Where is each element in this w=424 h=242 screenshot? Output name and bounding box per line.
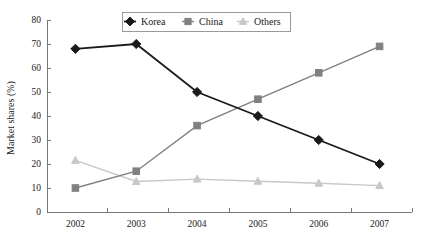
y-tick-label: 60 xyxy=(32,63,42,73)
series-korea xyxy=(71,39,384,168)
y-tick-label: 40 xyxy=(32,111,42,121)
y-tick-label: 10 xyxy=(32,183,42,193)
x-tick-label: 2006 xyxy=(309,219,328,229)
series-others xyxy=(72,156,384,188)
data-point-marker xyxy=(72,185,79,192)
legend-label-others: Others xyxy=(254,16,281,27)
data-point-marker xyxy=(255,96,262,103)
x-tick-label: 2007 xyxy=(370,219,389,229)
x-axis-ticks xyxy=(108,208,412,212)
data-point-marker xyxy=(375,159,384,168)
data-point-marker xyxy=(315,70,322,77)
data-point-marker xyxy=(253,111,262,120)
legend-label-china: China xyxy=(199,16,223,27)
x-tick-label: 2005 xyxy=(248,219,267,229)
legend-label-korea: Korea xyxy=(141,16,166,27)
data-series-layer xyxy=(71,39,384,191)
y-axis-ticks xyxy=(47,20,51,212)
series-line xyxy=(75,160,379,185)
y-axis-title: Market shares (%) xyxy=(5,81,17,155)
x-tick-label: 2004 xyxy=(188,219,207,229)
series-line xyxy=(75,46,379,188)
data-point-marker xyxy=(72,156,80,163)
data-point-marker xyxy=(185,18,191,24)
y-tick-label: 30 xyxy=(32,135,42,145)
y-tick-label: 20 xyxy=(32,159,42,169)
y-tick-label: 50 xyxy=(32,87,42,97)
data-point-marker xyxy=(194,122,201,129)
series-line xyxy=(75,44,379,164)
chart-legend: KoreaChinaOthers xyxy=(122,12,290,31)
y-tick-label: 80 xyxy=(32,15,42,25)
data-point-marker xyxy=(133,168,140,175)
data-point-marker xyxy=(376,43,383,50)
legend-items: KoreaChinaOthers xyxy=(124,16,281,27)
x-tick-label: 2002 xyxy=(66,219,85,229)
y-axis-tick-labels: 01020304050607080 xyxy=(32,15,42,217)
y-tick-label: 0 xyxy=(36,207,41,217)
chart-screen: 01020304050607080 2002200320042005200620… xyxy=(0,0,424,242)
data-point-marker xyxy=(71,44,80,53)
data-point-marker xyxy=(314,135,323,144)
x-axis-tick-labels: 200220032004200520062007 xyxy=(66,219,389,229)
line-chart: 01020304050607080 2002200320042005200620… xyxy=(0,0,424,242)
y-tick-label: 70 xyxy=(32,39,42,49)
axis-lines xyxy=(47,20,412,212)
series-china xyxy=(72,43,383,191)
x-tick-label: 2003 xyxy=(127,219,146,229)
plot-axes xyxy=(47,20,412,212)
